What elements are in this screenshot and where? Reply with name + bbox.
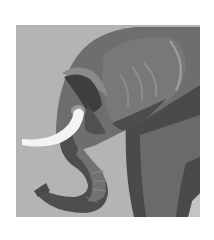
elephant-illustration xyxy=(16,25,200,217)
